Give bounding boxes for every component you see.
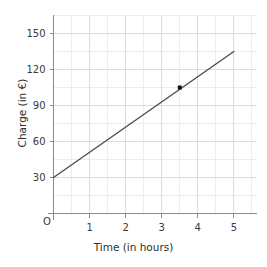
- x-axis-title: Time (in hours): [0, 241, 267, 253]
- y-axis-tick-label: 150: [20, 29, 46, 39]
- minor-gridlines: [54, 16, 256, 214]
- data-point-markers: [178, 86, 182, 90]
- origin-label: O: [40, 216, 54, 227]
- x-axis-tick-label: 5: [224, 223, 244, 233]
- major-gridlines: [54, 16, 256, 214]
- x-axis-tick-label: 4: [188, 223, 208, 233]
- x-axis-tick-label: 1: [80, 223, 100, 233]
- data-point-marker: [178, 86, 182, 90]
- axis-lines: [48, 15, 257, 220]
- x-axis-tick-label: 2: [116, 223, 136, 233]
- chart-container: 306090120150 12345 O Time (in hours) Cha…: [0, 0, 267, 267]
- x-axis-tick-label: 3: [152, 223, 172, 233]
- y-axis-title: Charge (in €): [16, 48, 28, 178]
- axis-ticks: [50, 34, 234, 218]
